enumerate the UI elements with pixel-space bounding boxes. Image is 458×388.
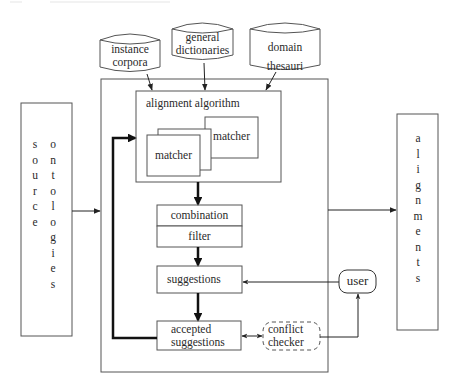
source-letter: u xyxy=(29,168,41,184)
arrow-conflict-to-user xyxy=(320,294,358,337)
conflict-line2: checker xyxy=(268,336,304,349)
arrow-instance-corpora xyxy=(147,74,152,90)
alignments-letter: l xyxy=(411,147,425,163)
source-letter: c xyxy=(29,199,41,215)
source-letter: o xyxy=(29,153,41,169)
source-letter: r xyxy=(29,184,41,200)
ontologies-letter: o xyxy=(47,137,59,153)
alignments-label-column: a l i g n m e n t s xyxy=(411,131,425,286)
general-dictionaries-line1: general xyxy=(172,31,233,44)
conflict-line1: conflict xyxy=(268,323,304,336)
ontologies-letter: o xyxy=(47,215,59,231)
ontologies-letter: g xyxy=(47,230,59,246)
source-letter: s xyxy=(29,137,41,153)
conflict-checker-label: conflict checker xyxy=(268,323,304,349)
accepted-suggestions-label: accepted suggestions xyxy=(171,323,225,349)
source-label-column: s o u r c e xyxy=(29,137,41,230)
ontologies-letter: i xyxy=(47,246,59,262)
accepted-line2: suggestions xyxy=(171,336,225,349)
instance-corpora-label: instance corpora xyxy=(100,43,160,69)
general-dictionaries-label: general dictionaries xyxy=(172,31,233,57)
user-label: user xyxy=(339,274,376,287)
alignments-letter: n xyxy=(411,240,425,256)
suggestions-label: suggestions xyxy=(167,273,221,286)
ontologies-letter: s xyxy=(47,277,59,293)
alignments-letter: e xyxy=(411,224,425,240)
filter-label: filter xyxy=(157,230,242,243)
instance-corpora-line1: instance xyxy=(100,43,160,56)
ontologies-letter: l xyxy=(47,199,59,215)
ontologies-letter: n xyxy=(47,153,59,169)
general-dictionaries-line2: dictionaries xyxy=(172,44,233,57)
domain-thesauri-line1: domain xyxy=(250,38,320,57)
alignments-letter: m xyxy=(411,209,425,225)
ontologies-letter: t xyxy=(47,168,59,184)
source-letter: e xyxy=(29,215,41,231)
domain-thesauri-label: domain thesauri xyxy=(250,38,320,76)
alignments-letter: g xyxy=(411,178,425,194)
accepted-line1: accepted xyxy=(171,323,225,336)
alignments-letter: n xyxy=(411,193,425,209)
domain-thesauri-line2: thesauri xyxy=(250,57,320,76)
matcher-front-label: matcher xyxy=(147,149,200,162)
combination-label: combination xyxy=(157,209,242,222)
alignments-letter: a xyxy=(411,131,425,147)
alignments-letter: s xyxy=(411,271,425,287)
matcher-back-label: matcher xyxy=(205,130,258,143)
ontologies-letter: o xyxy=(47,184,59,200)
ontologies-label-column: o n t o l o g i e s xyxy=(47,137,59,292)
ontologies-letter: e xyxy=(47,261,59,277)
diagram-canvas xyxy=(0,0,458,388)
alignments-letter: t xyxy=(411,255,425,271)
alignments-letter: i xyxy=(411,162,425,178)
arrow-general-dictionaries xyxy=(204,63,205,90)
alignment-algorithm-label: alignment algorithm xyxy=(146,97,240,110)
instance-corpora-line2: corpora xyxy=(100,56,160,69)
